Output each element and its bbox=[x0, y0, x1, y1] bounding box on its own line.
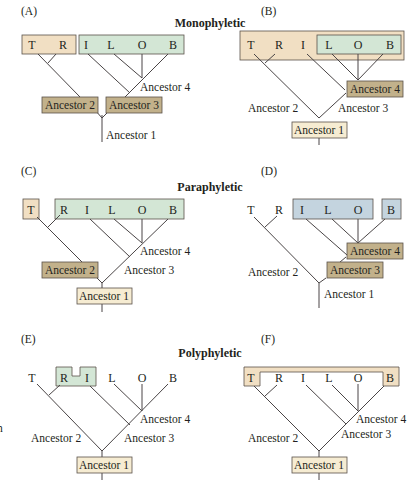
taxon-t: T bbox=[27, 203, 35, 217]
taxon-b: B bbox=[169, 203, 177, 217]
ancestor-2-label: Ancestor 2 bbox=[45, 99, 95, 111]
taxon-i: I bbox=[300, 203, 304, 217]
taxon-i: I bbox=[85, 371, 89, 385]
taxon-b: B bbox=[386, 371, 394, 385]
ancestor-1-label: Ancestor 1 bbox=[294, 124, 344, 136]
taxon-l: L bbox=[107, 38, 114, 52]
panel-d: (D) T R I L O B Ancestor 4 Ancestor 3 An… bbox=[247, 165, 403, 308]
taxon-i: I bbox=[85, 203, 89, 217]
section-title-paraphyletic: Paraphyletic bbox=[177, 180, 243, 194]
ancestor-2-label: Ancestor 2 bbox=[248, 266, 298, 278]
taxon-i: I bbox=[84, 38, 88, 52]
panel-label-f: (F) bbox=[261, 333, 275, 346]
taxon-t: T bbox=[28, 38, 36, 52]
ancestor-4-label: Ancestor 4 bbox=[140, 81, 190, 93]
panel-a: (A) T R I L O B Ancestor 2 Ancestor 3 An… bbox=[21, 5, 190, 142]
taxon-t: T bbox=[247, 203, 255, 217]
taxon-r: R bbox=[275, 371, 283, 385]
ancestor-4-label: Ancestor 4 bbox=[140, 245, 190, 257]
panel-label-d: (D) bbox=[261, 165, 277, 178]
taxon-o: O bbox=[354, 371, 363, 385]
panel-e: (E) T R I L O B Ancestor 4 Ancestor 2 An… bbox=[21, 333, 190, 480]
clade-box-tb-polyphyletic bbox=[244, 367, 399, 386]
ancestor-3-label: Ancestor 3 bbox=[330, 264, 380, 276]
ancestor-4-label: Ancestor 4 bbox=[140, 413, 190, 425]
section-title-monophyletic: Monophyletic bbox=[175, 16, 246, 30]
panel-c: (C) T R I L O B Ancestor 2 Ancestor 4 An… bbox=[21, 165, 190, 312]
taxon-b: B bbox=[169, 38, 177, 52]
ancestor-1-label: Ancestor 1 bbox=[294, 459, 344, 471]
taxon-o: O bbox=[138, 203, 147, 217]
ancestor-2-label: Ancestor 2 bbox=[45, 264, 95, 276]
taxon-o: O bbox=[138, 371, 147, 385]
taxon-t: T bbox=[28, 371, 36, 385]
taxon-o: O bbox=[354, 203, 363, 217]
ancestor-4-label: Ancestor 4 bbox=[356, 413, 406, 425]
taxon-t: T bbox=[247, 38, 255, 52]
panel-label-a: (A) bbox=[21, 5, 37, 18]
panel-label-c: (C) bbox=[21, 165, 37, 178]
taxon-r: R bbox=[60, 371, 68, 385]
taxon-o: O bbox=[354, 38, 363, 52]
taxon-o: O bbox=[138, 38, 147, 52]
taxon-l: L bbox=[108, 371, 115, 385]
taxon-t: T bbox=[247, 371, 255, 385]
ancestor-1-label: Ancestor 1 bbox=[79, 290, 129, 302]
ancestor-1-label: Ancestor 1 bbox=[106, 129, 156, 141]
cropped-text-fragment: n bbox=[0, 422, 3, 434]
taxon-l: L bbox=[325, 38, 332, 52]
ancestor-4-label: Ancestor 4 bbox=[350, 245, 400, 257]
panel-b: (B) T R I L O B Ancestor 4 Ancestor 2 An… bbox=[240, 5, 404, 145]
panel-label-b: (B) bbox=[261, 5, 277, 18]
ancestor-3-label: Ancestor 3 bbox=[338, 102, 388, 114]
ancestor-3-label: Ancestor 3 bbox=[109, 99, 159, 111]
ancestor-1-label: Ancestor 1 bbox=[324, 288, 374, 300]
cladogram-figure: Monophyletic Paraphyletic Polyphyletic n… bbox=[0, 0, 419, 490]
ancestor-4-label: Ancestor 4 bbox=[350, 83, 400, 95]
ancestor-2-label: Ancestor 2 bbox=[31, 432, 81, 444]
taxon-i: I bbox=[301, 38, 305, 52]
taxon-i: I bbox=[301, 371, 305, 385]
taxon-b: B bbox=[169, 371, 177, 385]
taxon-b: B bbox=[386, 38, 394, 52]
taxon-l: L bbox=[324, 203, 331, 217]
taxon-b: B bbox=[387, 203, 395, 217]
section-title-polyphyletic: Polyphyletic bbox=[178, 346, 242, 360]
ancestor-2-label: Ancestor 2 bbox=[248, 432, 298, 444]
panel-f: (F) T R I L O B Ancestor 4 Ancestor 2 An… bbox=[244, 333, 406, 480]
ancestor-3-label: Ancestor 3 bbox=[124, 264, 174, 276]
taxon-l: L bbox=[325, 371, 332, 385]
taxon-l: L bbox=[108, 203, 115, 217]
clade-box-rilob bbox=[55, 199, 184, 219]
taxon-r: R bbox=[59, 38, 67, 52]
taxon-r: R bbox=[60, 203, 68, 217]
panel-label-e: (E) bbox=[21, 333, 36, 346]
taxon-r: R bbox=[275, 38, 283, 52]
ancestor-3-label: Ancestor 3 bbox=[124, 432, 174, 444]
ancestor-2-label: Ancestor 2 bbox=[248, 102, 298, 114]
taxon-r: R bbox=[275, 203, 283, 217]
ancestor-3-label: Ancestor 3 bbox=[341, 428, 391, 440]
ancestor-1-label: Ancestor 1 bbox=[79, 459, 129, 471]
